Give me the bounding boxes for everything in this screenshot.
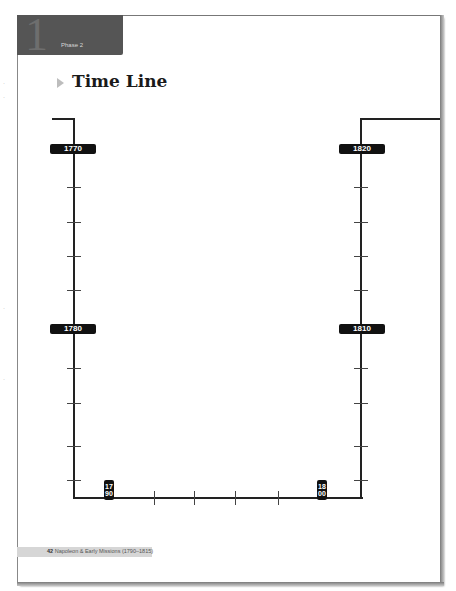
timeline-tick: [354, 480, 368, 481]
timeline-tick: [354, 256, 368, 257]
timeline-tick: [354, 222, 368, 223]
year-label-1820: 1820: [339, 144, 385, 154]
timeline-tick: [354, 403, 368, 404]
timeline-end-stub: [360, 118, 440, 120]
triangle-bullet-icon: [57, 78, 64, 88]
timeline-tick: [235, 491, 236, 505]
timeline-right-axis: [360, 118, 362, 499]
margin-mark: ·: [3, 305, 5, 311]
timeline-tick: [67, 446, 81, 447]
timeline-tick: [67, 187, 81, 188]
timeline-tick: [67, 403, 81, 404]
year-label-1800: 1800: [317, 480, 327, 500]
timeline-tick: [354, 446, 368, 447]
timeline-tick: [354, 187, 368, 188]
timeline-tick: [67, 290, 81, 291]
timeline-tick: [67, 480, 81, 481]
footer: 42 Napoleon & Early Missions (1790–1815): [47, 548, 153, 554]
margin-mark: ·: [3, 80, 5, 86]
timeline-tick: [154, 491, 155, 505]
phase-number: 1: [25, 12, 48, 58]
timeline-tick: [354, 368, 368, 369]
timeline-tick: [354, 290, 368, 291]
year-label-1790: 1790: [104, 480, 114, 500]
margin-mark: ·: [3, 376, 5, 382]
timeline-left-axis: [73, 118, 75, 499]
timeline-start-stub: [52, 118, 74, 120]
timeline-tick: [278, 491, 279, 505]
page-number: 42: [47, 548, 53, 554]
page-title: Time Line: [72, 71, 167, 91]
margin-mark: ·: [3, 94, 5, 100]
year-label-1770: 1770: [50, 144, 96, 154]
timeline-tick: [67, 256, 81, 257]
timeline-tick: [67, 222, 81, 223]
year-label-1810: 1810: [339, 324, 385, 334]
timeline-tick: [194, 491, 195, 505]
timeline-tick: [67, 368, 81, 369]
page-shadow: [440, 15, 444, 585]
footer-title: Napoleon & Early Missions (1790–1815): [55, 548, 153, 554]
year-label-1780: 1780: [50, 324, 96, 334]
page-shadow: [17, 582, 444, 586]
phase-label: Phase 2: [61, 42, 83, 48]
